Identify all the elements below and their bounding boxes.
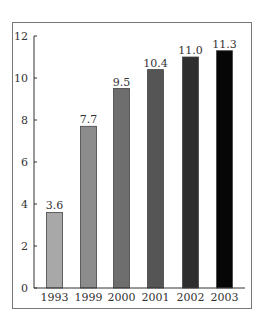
y-tick-label: 4 (21, 198, 28, 211)
value-label: 3.6 (46, 199, 64, 212)
value-label: 7.7 (80, 113, 98, 126)
value-label: 11.0 (178, 44, 203, 57)
bar-chart: 024681012 3.67.79.510.411.011.3 19931999… (0, 0, 266, 322)
x-tick-label: 2001 (142, 291, 170, 304)
value-label: 9.5 (113, 76, 131, 89)
y-tick-label: 8 (21, 114, 28, 127)
bar-2003 (217, 51, 233, 288)
x-tick-label: 2000 (108, 291, 136, 304)
value-label: 10.4 (143, 57, 168, 70)
x-tick-label: 1993 (41, 291, 69, 304)
bar-1993 (47, 212, 63, 288)
y-tick-label: 10 (14, 72, 28, 85)
bar-2002 (183, 57, 199, 288)
x-tick-label: 2003 (211, 291, 239, 304)
value-label: 11.3 (212, 38, 237, 51)
x-tick-label: 1999 (75, 291, 103, 304)
y-tick-label: 0 (21, 282, 28, 295)
y-tick-label: 12 (14, 30, 28, 43)
x-tick-label: 2002 (177, 291, 205, 304)
y-tick-label: 2 (21, 240, 28, 253)
bar-2000 (114, 89, 130, 289)
y-tick-label: 6 (21, 156, 28, 169)
bar-2001 (148, 70, 164, 288)
bar-1999 (81, 126, 97, 288)
